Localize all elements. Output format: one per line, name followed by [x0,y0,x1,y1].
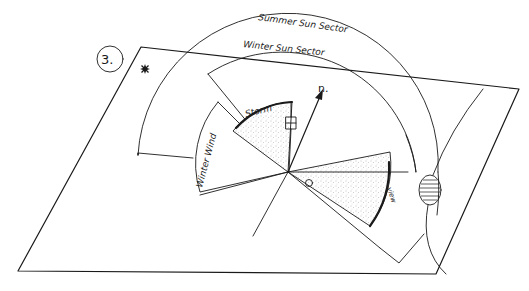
spoke-lower-left [253,172,288,236]
summer-sun-sector-label: Summer Sun Sector [258,12,350,35]
view-label: view [385,186,398,204]
winter-sun-sector-bottom [406,135,416,172]
north-arrow-shaft [288,94,321,172]
pond-stripes [420,180,440,200]
site-boundary [18,47,519,274]
star-icon [140,64,150,74]
stream-branch [380,234,424,263]
stream-lower [426,205,446,274]
pond-icon [419,175,441,205]
stream-upper [433,89,483,175]
site-analysis-diagram: 3. n. Summer Sun Sector Winter Su [0,0,529,291]
spoke-to-winter-wind [200,172,288,195]
north-label: n. [318,82,328,95]
figure-number: 3. [101,52,113,67]
summer-sector-left-spoke [138,153,193,158]
